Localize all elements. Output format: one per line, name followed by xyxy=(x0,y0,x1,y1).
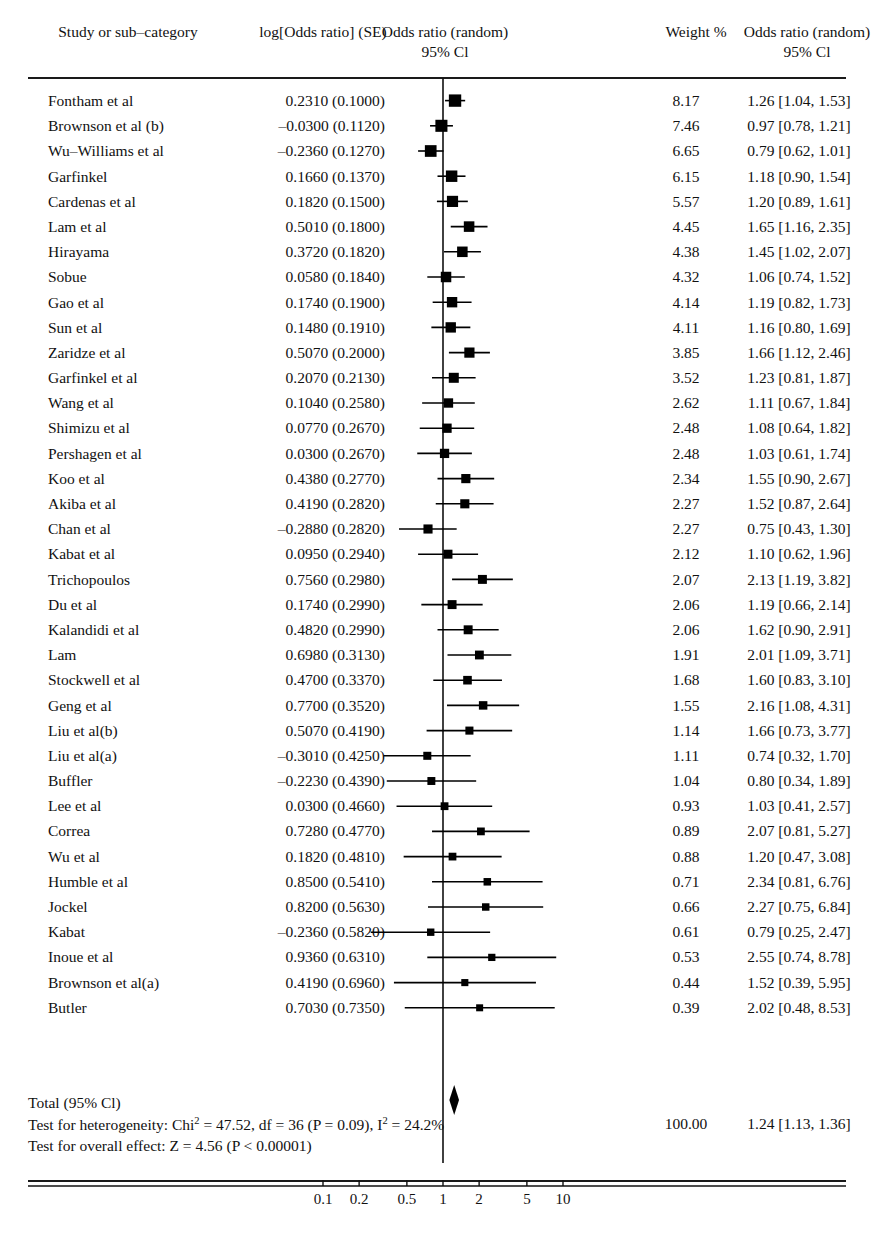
cell-weight: 2.48 xyxy=(636,441,736,466)
table-row: Buffler–0.2230 (0.4390)1.040.80 [0.34, 1… xyxy=(0,768,874,793)
cell-study: Stockwell et al xyxy=(48,667,228,692)
table-row: Lam et al0.5010 (0.1800)4.451.65 [1.16, … xyxy=(0,214,874,239)
table-row: Garfinkel et al0.2070 (0.2130)3.521.23 [… xyxy=(0,365,874,390)
cell-logor: 0.2070 (0.2130) xyxy=(210,365,385,390)
table-row: Garfinkel0.1660 (0.1370)6.151.18 [0.90, … xyxy=(0,164,874,189)
cell-logor: 0.0770 (0.2670) xyxy=(210,415,385,440)
cell-weight: 3.52 xyxy=(636,365,736,390)
cell-logor: 0.4380 (0.2770) xyxy=(210,466,385,491)
cell-or: 2.07 [0.81, 5.27] xyxy=(736,818,862,843)
cell-or: 0.79 [0.25, 2.47] xyxy=(736,919,862,944)
cell-weight: 1.04 xyxy=(636,768,736,793)
cell-or: 2.01 [1.09, 3.71] xyxy=(736,642,862,667)
total-oddsratio-value: 1.24 [1.13, 1.36] xyxy=(736,1113,862,1135)
header-or-line1: Odds ratio (random) xyxy=(740,22,874,42)
cell-logor: 0.0580 (0.1840) xyxy=(210,264,385,289)
header-plot-line1: Odds ratio (random) xyxy=(330,22,560,42)
cell-or: 1.16 [0.80, 1.69] xyxy=(736,315,862,340)
total-weight-value: 100.00 xyxy=(636,1113,736,1135)
table-row: Kabat et al0.0950 (0.2940)2.121.10 [0.62… xyxy=(0,541,874,566)
cell-weight: 1.55 xyxy=(636,693,736,718)
cell-study: Geng et al xyxy=(48,693,228,718)
cell-logor: 0.6980 (0.3130) xyxy=(210,642,385,667)
cell-logor: 0.4820 (0.2990) xyxy=(210,617,385,642)
heterogeneity-pre: Test for heterogeneity: Chi xyxy=(28,1116,194,1133)
cell-weight: 1.68 xyxy=(636,667,736,692)
cell-weight: 0.66 xyxy=(636,894,736,919)
cell-study: Hirayama xyxy=(48,239,228,264)
axis-tick-label: 0.2 xyxy=(339,1191,379,1207)
cell-study: Lam et al xyxy=(48,214,228,239)
table-row: Chan et al–0.2880 (0.2820)2.270.75 [0.43… xyxy=(0,516,874,541)
cell-weight: 5.57 xyxy=(636,189,736,214)
cell-logor: 0.7280 (0.4770) xyxy=(210,818,385,843)
cell-weight: 2.06 xyxy=(636,592,736,617)
axis-tick-label: 0.5 xyxy=(387,1191,427,1207)
cell-weight: 2.27 xyxy=(636,516,736,541)
cell-or: 1.18 [0.90, 1.54] xyxy=(736,164,862,189)
cell-study: Brownson et al (b) xyxy=(48,113,228,138)
cell-logor: 0.5070 (0.2000) xyxy=(210,340,385,365)
cell-study: Butler xyxy=(48,995,228,1020)
cell-logor: 0.9360 (0.6310) xyxy=(210,944,385,969)
cell-logor: 0.1480 (0.1910) xyxy=(210,315,385,340)
cell-or: 2.34 [0.81, 6.76] xyxy=(736,869,862,894)
cell-weight: 6.65 xyxy=(636,138,736,163)
cell-weight: 3.85 xyxy=(636,340,736,365)
table-row: Shimizu et al0.0770 (0.2670)2.481.08 [0.… xyxy=(0,415,874,440)
cell-study: Sun et al xyxy=(48,315,228,340)
cell-or: 1.60 [0.83, 3.10] xyxy=(736,667,862,692)
axis-tick-label: 2 xyxy=(459,1191,499,1207)
cell-logor: 0.4190 (0.2820) xyxy=(210,491,385,516)
cell-weight: 7.46 xyxy=(636,113,736,138)
cell-or: 0.97 [0.78, 1.21] xyxy=(736,113,862,138)
cell-logor: 0.2310 (0.1000) xyxy=(210,88,385,113)
cell-study: Shimizu et al xyxy=(48,415,228,440)
cell-logor: 0.1040 (0.2580) xyxy=(210,390,385,415)
cell-or: 1.20 [0.47, 3.08] xyxy=(736,844,862,869)
cell-logor: 0.1820 (0.4810) xyxy=(210,844,385,869)
cell-logor: 0.4190 (0.6960) xyxy=(210,970,385,995)
cell-weight: 0.88 xyxy=(636,844,736,869)
header-oddsratio: Odds ratio (random) 95% Cl xyxy=(740,22,874,62)
cell-weight: 2.27 xyxy=(636,491,736,516)
cell-weight: 2.07 xyxy=(636,567,736,592)
cell-study: Correa xyxy=(48,818,228,843)
cell-logor: 0.5010 (0.1800) xyxy=(210,214,385,239)
cell-logor: 0.7030 (0.7350) xyxy=(210,995,385,1020)
cell-or: 1.52 [0.87, 2.64] xyxy=(736,491,862,516)
cell-weight: 0.39 xyxy=(636,995,736,1020)
table-row: Liu et al(a)–0.3010 (0.4250)1.110.74 [0.… xyxy=(0,743,874,768)
cell-or: 2.02 [0.48, 8.53] xyxy=(736,995,862,1020)
cell-or: 2.27 [0.75, 6.84] xyxy=(736,894,862,919)
cell-logor: –0.2880 (0.2820) xyxy=(210,516,385,541)
table-row: Butler0.7030 (0.7350)0.392.02 [0.48, 8.5… xyxy=(0,995,874,1020)
cell-or: 1.26 [1.04, 1.53] xyxy=(736,88,862,113)
cell-weight: 2.34 xyxy=(636,466,736,491)
totals-block: Total (95% Cl) Test for heterogeneity: C… xyxy=(28,1092,628,1157)
cell-or: 1.19 [0.66, 2.14] xyxy=(736,592,862,617)
cell-study: Buffler xyxy=(48,768,228,793)
cell-logor: –0.2230 (0.4390) xyxy=(210,768,385,793)
header-study: Study or sub–category xyxy=(28,22,228,42)
cell-logor: 0.7700 (0.3520) xyxy=(210,693,385,718)
cell-weight: 4.45 xyxy=(636,214,736,239)
study-rows: Fontham et al0.2310 (0.1000)8.171.26 [1.… xyxy=(0,88,874,1020)
cell-weight: 6.15 xyxy=(636,164,736,189)
cell-logor: 0.5070 (0.4190) xyxy=(210,718,385,743)
axis-tick-label: 10 xyxy=(543,1191,583,1207)
table-row: Kabat–0.2360 (0.5820)0.610.79 [0.25, 2.4… xyxy=(0,919,874,944)
axis-tick-label: 5 xyxy=(507,1191,547,1207)
cell-or: 1.10 [0.62, 1.96] xyxy=(736,541,862,566)
cell-logor: 0.1740 (0.2990) xyxy=(210,592,385,617)
table-row: Correa0.7280 (0.4770)0.892.07 [0.81, 5.2… xyxy=(0,818,874,843)
overall-effect-test: Test for overall effect: Z = 4.56 (P < 0… xyxy=(28,1135,628,1157)
cell-study: Brownson et al(a) xyxy=(48,970,228,995)
cell-or: 1.52 [0.39, 5.95] xyxy=(736,970,862,995)
cell-or: 0.80 [0.34, 1.89] xyxy=(736,768,862,793)
table-row: Sobue0.0580 (0.1840)4.321.06 [0.74, 1.52… xyxy=(0,264,874,289)
cell-or: 2.13 [1.19, 3.82] xyxy=(736,567,862,592)
cell-logor: –0.2360 (0.1270) xyxy=(210,138,385,163)
table-row: Stockwell et al0.4700 (0.3370)1.681.60 [… xyxy=(0,667,874,692)
cell-study: Garfinkel et al xyxy=(48,365,228,390)
